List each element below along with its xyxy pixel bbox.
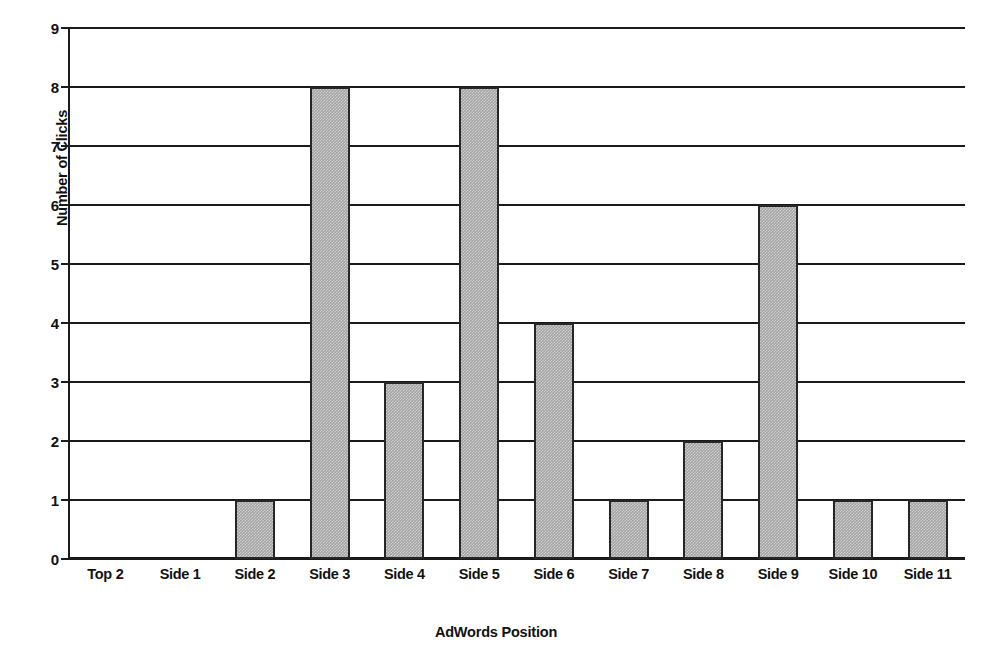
y-axis-tick-label: 0: [51, 552, 59, 567]
bar-slot: [758, 28, 798, 559]
bar[interactable]: [459, 87, 499, 559]
bar[interactable]: [683, 441, 723, 559]
bars-layer: [68, 28, 965, 559]
bar[interactable]: [534, 323, 574, 559]
y-axis-tick-label: 6: [51, 198, 59, 213]
bar[interactable]: [235, 500, 275, 559]
bar-slot: [609, 28, 649, 559]
bar[interactable]: [310, 87, 350, 559]
x-axis-tick-label: Side 8: [666, 566, 741, 583]
bar[interactable]: [833, 500, 873, 559]
x-axis-tick-label: Side 6: [517, 566, 592, 583]
y-axis-tick-mark: [61, 322, 68, 324]
y-axis-tick-label: 1: [51, 493, 59, 508]
y-axis-tick-mark: [61, 145, 68, 147]
y-axis-tick-mark: [61, 27, 68, 29]
y-axis-tick-mark: [61, 558, 68, 560]
x-axis-tick-label: Side 7: [591, 566, 666, 583]
bar-slot: [459, 28, 499, 559]
y-axis-tick-label: 4: [51, 316, 59, 331]
bar-slot: [310, 28, 350, 559]
y-axis-tick-label: 3: [51, 375, 59, 390]
y-axis-tick-label: 7: [51, 139, 59, 154]
bar[interactable]: [384, 382, 424, 559]
x-axis-tick-label: Side 5: [442, 566, 517, 583]
bar-slot: [683, 28, 723, 559]
y-axis-tick-label: 8: [51, 80, 59, 95]
bar-slot: [160, 28, 200, 559]
x-axis-title: AdWords Position: [0, 624, 992, 640]
bar-slot: [85, 28, 125, 559]
x-axis-tick-labels: Top 2Side 1Side 2Side 3Side 4Side 5Side …: [68, 566, 965, 590]
x-axis-tick-label: Side 10: [816, 566, 891, 583]
x-axis-tick-label: Side 4: [367, 566, 442, 583]
x-axis-tick-label: Side 1: [143, 566, 218, 583]
y-axis-tick-label: 9: [51, 21, 59, 36]
bar[interactable]: [758, 205, 798, 559]
x-axis-tick-label: Side 11: [890, 566, 965, 583]
y-axis-tick-mark: [61, 263, 68, 265]
y-axis-tick-mark: [61, 499, 68, 501]
bar-chart: Number of Clicks 0123456789 Top 2Side 1S…: [0, 0, 992, 661]
bar-slot: [908, 28, 948, 559]
y-axis-tick-mark: [61, 381, 68, 383]
y-axis-tick-label: 2: [51, 434, 59, 449]
bar-slot: [384, 28, 424, 559]
x-axis-tick-label: Top 2: [68, 566, 143, 583]
x-axis-tick-label: Side 2: [218, 566, 293, 583]
y-axis-tick-mark: [61, 86, 68, 88]
plot-area: 0123456789: [68, 28, 965, 559]
bar[interactable]: [908, 500, 948, 559]
y-axis-tick-mark: [61, 440, 68, 442]
bar-slot: [235, 28, 275, 559]
y-axis-tick-mark: [61, 204, 68, 206]
x-axis-tick-label: Side 3: [292, 566, 367, 583]
bar-slot: [833, 28, 873, 559]
y-axis-tick-label: 5: [51, 257, 59, 272]
bar[interactable]: [609, 500, 649, 559]
x-axis-tick-label: Side 9: [741, 566, 816, 583]
bar-slot: [534, 28, 574, 559]
